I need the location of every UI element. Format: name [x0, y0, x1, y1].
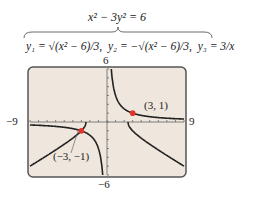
intersection-point-neg3-neg1	[79, 128, 85, 134]
ymax-label: 6	[103, 54, 109, 66]
xmax-label: 9	[189, 115, 195, 127]
brace	[24, 27, 212, 38]
function-y2: y₂ = −√(x² − 6)/3,	[108, 40, 192, 52]
ymin-label: −6	[98, 178, 110, 190]
point-label-3-1: (3, 1)	[144, 99, 168, 111]
point-label-neg3-neg1: (−3, −1)	[53, 150, 89, 162]
graph	[0, 0, 274, 202]
function-list: y₁ = √(x² − 6)/3, y₂ = −√(x² − 6)/3, y₃ …	[26, 40, 234, 52]
intersection-point-3-1	[130, 110, 136, 116]
function-y3: y₃ = 3/x	[198, 40, 235, 52]
xmin-label: −9	[6, 115, 18, 127]
function-y1: y₁ = √(x² − 6)/3,	[26, 40, 102, 52]
